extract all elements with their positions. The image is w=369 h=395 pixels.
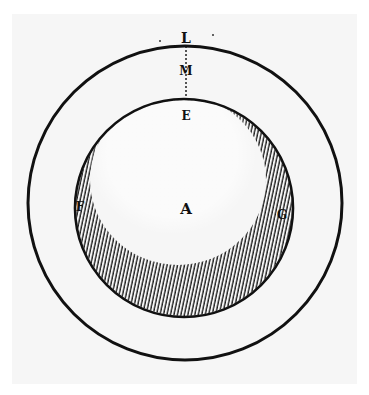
label-L: L <box>181 30 191 46</box>
diagram-figure: L M E F A G <box>0 0 369 395</box>
label-M: M <box>179 64 192 78</box>
label-F: F <box>76 200 85 214</box>
dot-mark <box>212 34 214 36</box>
label-A: A <box>179 200 192 218</box>
label-G: G <box>277 208 287 222</box>
dot-mark <box>159 40 161 42</box>
label-E: E <box>181 109 190 123</box>
